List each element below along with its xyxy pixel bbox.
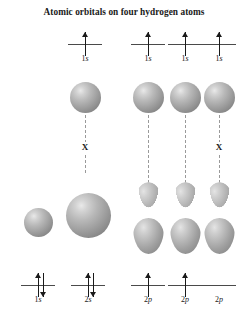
p-lobe-top (204, 182, 235, 218)
orbital-label-2s: 2s (71, 295, 105, 304)
node-marker-x-1: X (80, 142, 90, 153)
central-1s-sphere (24, 208, 53, 237)
orbital-label-2p: 2p (131, 295, 165, 304)
orbital-label-1s: 1s (168, 54, 202, 63)
orbital-diagram: Atomic orbitals on four hydrogen atoms 1… (0, 0, 248, 321)
orbital-label-2p: 2p (202, 295, 236, 304)
hydrogen-1s-sphere-2 (133, 82, 164, 113)
p-lobe-top (133, 182, 164, 218)
node-marker-x-2: X (214, 142, 224, 153)
orbital-label-1s: 1s (131, 54, 165, 63)
electron-arrow-up (216, 32, 223, 56)
orbital-line (202, 285, 236, 286)
figure-title: Atomic orbitals on four hydrogen atoms (0, 7, 248, 17)
connector-line-3 (185, 115, 186, 183)
electron-arrow-up (82, 32, 89, 56)
orbital-label-1s: 1s (21, 295, 55, 304)
central-2p-orbital-3 (204, 182, 235, 254)
p-lobe-bottom (204, 218, 235, 254)
electron-arrow-up (145, 273, 152, 297)
electron-arrow-down (90, 273, 97, 297)
electron-arrow-down (40, 273, 47, 297)
connector-line-2 (148, 115, 149, 183)
electron-arrow-up (182, 273, 189, 297)
hydrogen-1s-sphere-3 (170, 82, 201, 113)
central-2s-sphere (66, 193, 111, 238)
p-lobe-top (170, 182, 201, 218)
hydrogen-1s-sphere-4 (204, 82, 235, 113)
p-lobe-bottom (170, 218, 201, 254)
orbital-label-1s: 1s (68, 54, 102, 63)
p-lobe-bottom (133, 218, 164, 254)
hydrogen-1s-sphere-1 (70, 82, 101, 113)
electron-arrow-up (145, 32, 152, 56)
orbital-label-1s: 1s (202, 54, 236, 63)
electron-arrow-up (182, 32, 189, 56)
central-2p-orbital-2 (170, 182, 201, 254)
orbital-label-2p: 2p (168, 295, 202, 304)
central-2p-orbital-1 (133, 182, 164, 254)
